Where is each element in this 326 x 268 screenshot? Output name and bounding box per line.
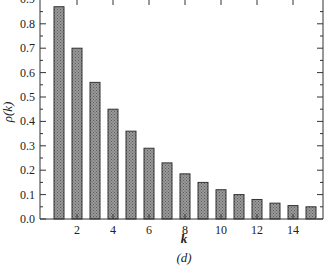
y-tick-label: 0.9	[20, 0, 35, 6]
bar-chart: 0.00.10.20.30.40.50.60.70.80.92468101214…	[0, 0, 326, 268]
bar-k13	[270, 203, 280, 219]
bar-k4	[108, 109, 118, 219]
y-axis-label: ρ(k)	[0, 102, 15, 124]
bar-k9	[198, 182, 208, 219]
x-tick-label: 6	[146, 223, 152, 237]
x-tick-label: 14	[287, 223, 299, 237]
bar-k5	[126, 131, 136, 219]
x-tick-label: 12	[251, 223, 263, 237]
x-tick-label: 2	[74, 223, 80, 237]
y-tick-label: 0.0	[20, 212, 35, 226]
y-tick-label: 0.8	[20, 17, 35, 31]
bar-k6	[144, 148, 154, 219]
y-tick-label: 0.4	[20, 114, 35, 128]
y-tick-label: 0.1	[20, 188, 35, 202]
bar-k11	[234, 195, 244, 219]
y-tick-label: 0.5	[20, 90, 35, 104]
x-tick-label: 10	[215, 223, 227, 237]
x-axis-label: k	[181, 231, 188, 246]
bar-k8	[180, 174, 190, 219]
bars-group	[54, 7, 316, 219]
bar-k1	[54, 7, 64, 219]
figure-caption: (d)	[176, 250, 191, 265]
bar-k15	[306, 207, 316, 219]
y-tick-label: 0.7	[20, 41, 35, 55]
bar-k3	[90, 82, 100, 219]
y-tick-label: 0.3	[20, 139, 35, 153]
y-tick-label: 0.6	[20, 66, 35, 80]
x-tick-label: 4	[110, 223, 116, 237]
labels-group: 0.00.10.20.30.40.50.60.70.80.92468101214…	[0, 0, 299, 265]
bar-k7	[162, 163, 172, 219]
bar-k2	[72, 48, 82, 219]
y-tick-label: 0.2	[20, 163, 35, 177]
